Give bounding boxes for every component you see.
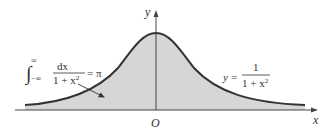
y-axis-label: y (144, 5, 151, 19)
function-denominator: 1 + x2 (242, 77, 269, 89)
integral-label: ∫ ∞ −∞ dx 1 + x2 = π (24, 56, 102, 86)
x-axis-arrow-icon (311, 108, 318, 113)
x-axis-label: x (312, 113, 319, 127)
function-label: y = 1 1 + x2 (222, 61, 270, 89)
function-numerator: 1 (253, 61, 259, 73)
function-equals: = (231, 71, 237, 83)
integral-numerator: dx (57, 60, 69, 72)
origin-label: O (151, 116, 160, 130)
integral-lower-limit: −∞ (31, 74, 42, 83)
bell-curve-diagram: y x O ∫ ∞ −∞ dx 1 + x2 = π y = 1 1 + x2 (0, 0, 336, 132)
function-lhs: y (222, 71, 228, 83)
y-axis-arrow-icon (154, 10, 159, 17)
integral-value: π (96, 67, 102, 79)
integral-upper-limit: ∞ (31, 56, 37, 65)
integral-denominator: 1 + x2 (53, 74, 80, 86)
integral-equals: = (87, 67, 93, 79)
